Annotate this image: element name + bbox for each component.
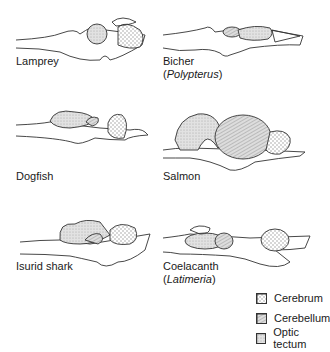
legend: Cerebrum Cerebellum Optic tectum [256,288,330,348]
cerebrum-swatch-icon [256,293,267,304]
legend-item-optic-tectum: Optic tectum [256,328,330,348]
cerebellum-swatch-icon [256,313,267,324]
legend-item-cerebrum: Cerebrum [256,288,330,308]
label-salmon: Salmon [163,170,200,183]
legend-label: Cerebellum [274,312,330,324]
label-bicher: Bicher [163,55,194,68]
bicher-brain [163,26,303,56]
label-dogfish: Dogfish [16,170,53,183]
sublabel-bicher-genus: Polypterus [167,68,219,80]
label-lamprey: Lamprey [16,55,59,68]
legend-label: Cerebrum [274,292,323,304]
sublabel-bicher: (Polypterus) [163,68,222,81]
sublabel-coelacanth: (Latimeria) [163,273,216,286]
legend-item-cerebellum: Cerebellum [256,308,330,328]
label-isurid-shark: Isurid shark [16,260,73,273]
lamprey-brain [16,18,145,60]
optic-tectum-swatch-icon [256,333,266,344]
legend-label: Optic tectum [273,326,330,350]
label-coelacanth: Coelacanth [163,260,219,273]
salmon-brain [163,114,305,170]
dogfish-brain [16,111,148,143]
sublabel-coelacanth-genus: Latimeria [167,273,212,285]
